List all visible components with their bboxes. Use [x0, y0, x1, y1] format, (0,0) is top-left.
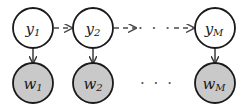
observed-node-1-base: w [23, 75, 36, 93]
latent-node-M-subscript: M [212, 27, 224, 38]
latent-node-2-subscript: 2 [93, 27, 100, 38]
latent-node-1-subscript: 1 [34, 27, 40, 38]
observed-node-M-base: w [202, 75, 215, 93]
observed-node-2-subscript: 2 [95, 82, 102, 93]
observed-node-2-base: w [83, 75, 96, 93]
observed-node-M-subscript: M [214, 82, 226, 93]
ellipsis-top-row: · · · [138, 19, 172, 37]
continuation-ellipses: · · · · · · [138, 19, 174, 92]
ellipsis-bottom-row: · · · [140, 74, 174, 92]
emission-edges [33, 48, 215, 63]
latent-node-1: y1 [13, 8, 53, 48]
observed-node-2: w2 [73, 63, 113, 103]
observed-node-M: wM [195, 63, 235, 103]
observed-node-1: w1 [13, 63, 53, 103]
observed-variable-nodes: w1 w2 wM [13, 63, 235, 103]
latent-node-M: yM [195, 8, 235, 48]
latent-node-2: y2 [73, 8, 113, 48]
observed-node-1-subscript: 1 [36, 82, 42, 93]
graphical-model-figure: y1 y2 yM w1 [0, 0, 245, 111]
diagram-canvas: y1 y2 yM w1 [0, 0, 245, 111]
